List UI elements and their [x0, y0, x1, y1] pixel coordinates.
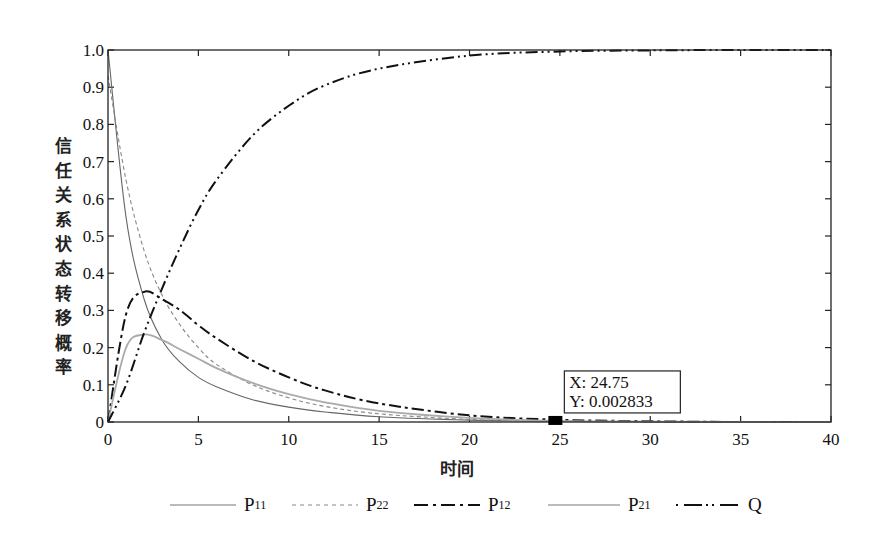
dashed-swatch-icon	[292, 500, 358, 510]
series-p21	[108, 334, 831, 422]
dash-dot-dot-swatch-icon	[674, 500, 740, 510]
x-tick-label: 0	[104, 430, 113, 449]
series-lines	[108, 50, 831, 422]
x-tick-label: 10	[280, 430, 297, 449]
datatip-y: Y: 0.002833	[569, 392, 652, 411]
y-axis-label: 信任关系状态转移概率	[52, 134, 74, 380]
plot-frame	[108, 50, 831, 422]
light-line-swatch-icon	[548, 500, 620, 510]
y-tick-label: 0.3	[83, 301, 104, 320]
line-chart: 00.10.20.30.40.50.60.70.80.91.0 05101520…	[0, 0, 870, 490]
legend-item-p11: P11	[170, 490, 266, 520]
line-swatch-icon	[170, 500, 236, 510]
y-tick-label: 0.5	[83, 227, 104, 246]
datatip-marker[interactable]	[548, 416, 562, 425]
y-tick-label: 0.9	[83, 78, 104, 97]
series-p12	[108, 291, 831, 422]
legend-item-q: Q	[674, 490, 762, 520]
datatip-x: X: 24.75	[569, 373, 629, 392]
x-tick-label: 40	[823, 430, 840, 449]
y-tick-label: 0.6	[83, 190, 104, 209]
legend-item-p12: P12	[414, 490, 511, 520]
y-tick-label: 0.2	[83, 339, 104, 358]
x-axis-ticks: 0510152025303540	[104, 50, 840, 449]
x-tick-label: 25	[551, 430, 568, 449]
x-tick-label: 15	[371, 430, 388, 449]
dash-dot-swatch-icon	[414, 500, 480, 510]
y-tick-label: 0.4	[83, 264, 105, 283]
x-tick-label: 20	[461, 430, 478, 449]
legend-item-p21: P21	[548, 490, 651, 520]
y-tick-label: 1.0	[83, 41, 104, 60]
series-p22	[108, 76, 831, 422]
y-tick-label: 0.7	[83, 153, 105, 172]
x-tick-label: 35	[732, 430, 749, 449]
series-q	[108, 50, 831, 422]
y-tick-label: 0.1	[83, 376, 104, 395]
y-axis-ticks: 00.10.20.30.40.50.60.70.80.91.0	[83, 41, 831, 432]
legend: P11 P22 P12 P21 Q	[0, 490, 870, 520]
y-tick-label: 0	[96, 413, 105, 432]
datatip[interactable]: X: 24.75Y: 0.002833	[548, 371, 680, 425]
series-p11	[108, 50, 831, 422]
x-axis-label: 时间	[440, 455, 474, 480]
x-tick-label: 5	[194, 430, 203, 449]
y-tick-label: 0.8	[83, 115, 104, 134]
x-tick-label: 30	[642, 430, 659, 449]
legend-item-p22: P22	[292, 490, 389, 520]
